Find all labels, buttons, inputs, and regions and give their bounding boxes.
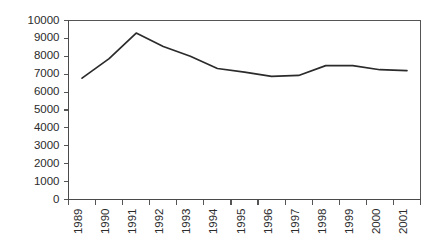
x-tick-label: 1992	[153, 209, 165, 235]
y-tick-label: 8000	[34, 49, 60, 61]
x-tick-label: 1995	[235, 209, 247, 235]
x-tick-label: 1991	[126, 209, 138, 235]
x-tick-label: 1996	[262, 209, 274, 235]
x-tick-label: 1998	[316, 209, 328, 235]
x-tick-label: 2001	[397, 209, 409, 235]
x-tick-label: 1999	[343, 209, 355, 235]
x-tick-label: 1997	[289, 209, 301, 235]
y-tick-label: 1000	[34, 175, 60, 187]
y-tick-label: 0	[53, 193, 59, 205]
chart-canvas: 0100020003000400050006000700080009000100…	[0, 0, 440, 249]
x-tick-label: 1994	[207, 208, 219, 234]
y-tick-label: 9000	[34, 31, 60, 43]
y-tick-label: 5000	[34, 103, 60, 115]
x-tick-label: 1993	[180, 209, 192, 235]
x-tick-label: 2000	[370, 209, 382, 235]
x-tick-label: 1989	[72, 209, 84, 235]
y-tick-label: 10000	[28, 14, 60, 26]
y-tick-label: 2000	[34, 157, 60, 169]
y-tick-label: 6000	[34, 85, 60, 97]
x-tick-label: 1990	[99, 209, 111, 235]
line-chart: 0100020003000400050006000700080009000100…	[0, 0, 440, 249]
y-tick-label: 7000	[34, 67, 60, 79]
y-tick-label: 4000	[34, 121, 60, 133]
y-tick-label: 3000	[34, 139, 60, 151]
